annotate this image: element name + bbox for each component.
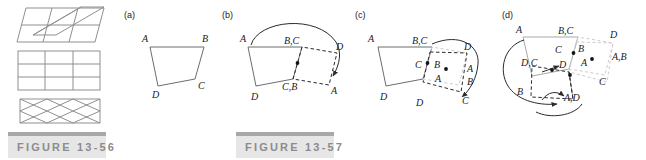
panel-a-vertex-B: B [202,33,208,44]
panel-c-vertex-C-bottom: C [462,95,469,106]
figure-13-56-artwork [0,0,112,132]
panel-b: (b) A B,C C,B D A D [222,10,344,102]
panel-d-vertex-D-top: D [609,29,618,40]
panel-c-vertex-A-right: A [466,63,474,74]
panel-b-vertex-CB: C,B [282,81,297,92]
panel-c: (c) A B,C C B A D D A B [355,10,478,108]
figure-13-56-caption: FIGURE 13-56 [8,132,106,158]
panel-b-vertex-BC: B,C [284,35,300,46]
panel-b-vertex-D-right: D [335,41,344,52]
panel-c-vertex-A: A [367,33,375,44]
panel-d-vertex-A-mid: A [580,57,588,68]
panel-a: (a) A B C D [124,10,208,100]
panel-b-vertex-D-left: D [250,91,259,102]
panel-d-label: (d) [502,10,513,20]
panel-c-vertex-BC: B,C [412,35,428,46]
panel-c-vertex-D-left: D [379,91,388,102]
panel-d-vertex-AB: A,B [611,51,627,62]
panel-d-vertex-C-right: C [599,76,606,87]
panel-c-vertex-D-top: D [463,41,472,52]
panel-d-vertex-B-mid: B [578,43,584,54]
rectangular-grid-panel [18,51,100,90]
panel-c-vertex-C: C [415,59,422,70]
panel-b-vertex-A-right: A [330,85,338,96]
panel-c-vertex-B: B [434,59,440,70]
figure-13-56-caption-text: FIGURE 13-56 [8,141,116,153]
caption-background: FIGURE 13-56 [8,136,106,158]
panel-d-vertex-DC: D,C [520,57,538,68]
figure-13-57: (a) A B C D (b) A B,C [112,0,646,160]
figure-13-57-artwork: (a) A B C D (b) A B,C [112,0,646,132]
panel-b-vertex-A: A [239,33,247,44]
figure-13-57-caption: FIGURE 13-57 [236,132,334,158]
panel-b-label: (b) [222,10,233,20]
panel-a-label: (a) [124,10,135,20]
panel-c-label: (c) [355,10,366,20]
panel-d-vertex-AD: A,D [563,92,581,103]
panel-c-vertex-D-bottom: D [415,97,424,108]
panel-d: (d) A B,C [502,10,627,116]
panel-d-vertex-A: A [515,24,523,35]
figure-13-56: FIGURE 13-56 [0,0,112,160]
sheared-grid-panel [17,7,104,44]
panel-a-vertex-C: C [198,80,205,91]
figure-page: FIGURE 13-56 (a) A B C D ( [0,0,646,160]
panel-d-vertex-B-left: B [517,86,523,97]
bowtie-grid-panel [20,99,100,123]
caption-background-57: FIGURE 13-57 [236,136,334,158]
panel-c-vertex-A-mid: A [434,73,442,84]
panel-c-vertex-B-right: B [467,76,473,87]
figure-13-57-caption-text: FIGURE 13-57 [236,141,344,153]
panel-d-vertex-D-mid: D [558,59,567,70]
panel-a-vertex-D: D [151,89,160,100]
panel-a-vertex-A: A [141,33,149,44]
panel-d-vertex-C-mid: C [555,44,562,55]
panel-d-vertex-BC: B,C [558,25,574,36]
